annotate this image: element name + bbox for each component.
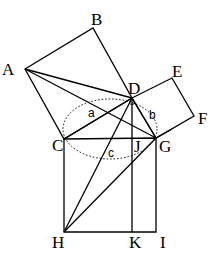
label-h: H bbox=[52, 233, 64, 252]
label-c: C bbox=[52, 136, 63, 155]
label-a: A bbox=[2, 60, 15, 79]
label-i: I bbox=[160, 233, 166, 252]
pythagorean-diagram: A B D E F C J G H K I a b c bbox=[0, 0, 221, 258]
label-e: E bbox=[172, 62, 182, 81]
square-dgfe bbox=[132, 78, 194, 138]
label-g: G bbox=[159, 137, 171, 156]
side-label-a: a bbox=[88, 106, 95, 120]
side-label-b: b bbox=[149, 108, 156, 122]
label-d: D bbox=[128, 79, 140, 98]
line-ad bbox=[25, 69, 132, 98]
label-k: K bbox=[129, 233, 142, 252]
label-b: B bbox=[91, 10, 102, 29]
label-j: J bbox=[134, 137, 141, 156]
side-label-c: c bbox=[108, 146, 114, 160]
label-f: F bbox=[198, 109, 207, 128]
